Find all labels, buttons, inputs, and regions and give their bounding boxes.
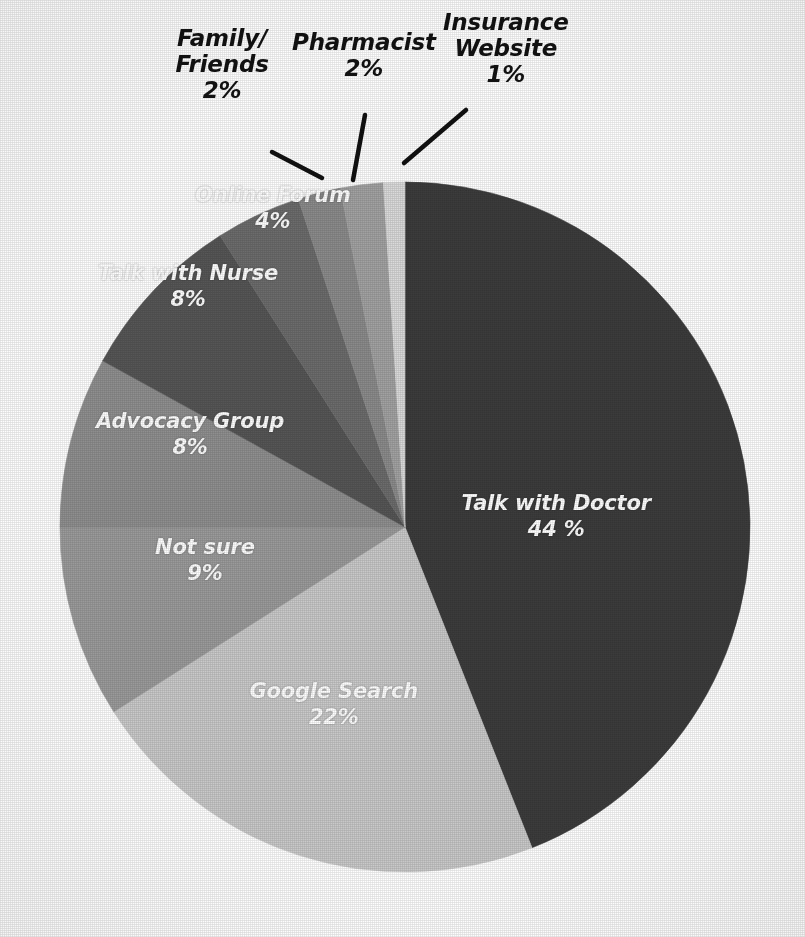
slice-label-name-not-sure: Not sure [155,535,255,559]
external-slice-label-insurance-website: Insurance Website1% [443,9,569,87]
leader-line-family-friends [272,152,322,178]
slice-label-value-pharmacist: 2% [292,55,436,81]
slice-label-name-pharmacist: Pharmacist [292,29,436,55]
slice-label-value-family-friends: 2% [176,77,269,103]
pie-chart-figure: Talk with Doctor44 %Google Search22%Not … [0,0,805,937]
slice-label-name-advocacy-group: Advocacy Group [96,409,284,433]
slice-label-talk-with-nurse: Talk with Nurse8% [98,260,278,312]
leader-lines-group [272,110,466,180]
slice-label-name-family-friends: Family/ Friends [176,25,269,77]
slice-label-name-talk-with-nurse: Talk with Nurse [98,261,278,285]
slice-label-value-advocacy-group: 8% [96,434,284,460]
leader-line-pharmacist [353,115,365,180]
slice-label-name-online-forum: Online Forum [195,183,351,207]
leader-line-insurance-website [404,110,466,163]
external-slice-label-pharmacist: Pharmacist2% [292,29,436,81]
slice-label-value-google-search: 22% [250,704,419,730]
slice-label-value-talk-with-nurse: 8% [98,286,278,312]
external-slice-label-family-friends: Family/ Friends2% [176,25,269,103]
slice-label-name-google-search: Google Search [250,679,419,703]
slice-label-name-talk-with-doctor: Talk with Doctor [462,491,651,515]
slice-label-not-sure: Not sure9% [155,534,255,586]
slice-label-value-not-sure: 9% [155,560,255,586]
slice-label-online-forum: Online Forum4% [195,182,351,234]
slice-label-value-insurance-website: 1% [443,61,569,87]
slice-label-name-insurance-website: Insurance Website [443,9,569,61]
pie-chart-canvas [0,0,805,937]
slice-label-value-online-forum: 4% [195,208,351,234]
slice-label-advocacy-group: Advocacy Group8% [96,408,284,460]
slice-label-value-talk-with-doctor: 44 % [462,516,651,542]
slice-label-google-search: Google Search22% [250,678,419,730]
slice-label-talk-with-doctor: Talk with Doctor44 % [462,490,651,542]
